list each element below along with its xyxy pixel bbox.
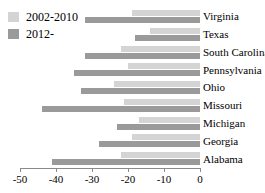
bar-group xyxy=(20,97,200,115)
category-label: Virginia xyxy=(203,8,265,26)
bar-group xyxy=(20,61,200,79)
bar xyxy=(85,17,200,23)
category-label: Pennsylvania xyxy=(203,61,265,79)
category-label: Georgia xyxy=(203,132,265,150)
bar xyxy=(81,88,200,94)
bar-group xyxy=(20,150,200,168)
bar xyxy=(121,46,200,52)
x-axis-line xyxy=(20,168,200,169)
legend-label-2002-2010: 2002-2010 xyxy=(26,11,78,23)
bar xyxy=(74,70,200,76)
bar xyxy=(85,53,200,59)
bar xyxy=(124,99,200,105)
category-axis-labels: VirginiaTexasSouth CarolinaPennsylvaniaO… xyxy=(203,8,265,168)
bar xyxy=(121,152,200,158)
bar xyxy=(132,10,200,16)
category-label: Michigan xyxy=(203,115,265,133)
bar-group xyxy=(20,44,200,62)
bar xyxy=(150,28,200,34)
category-label: Ohio xyxy=(203,79,265,97)
bar-group xyxy=(20,132,200,150)
x-axis-tick-label: -10 xyxy=(157,174,172,185)
x-axis-tick xyxy=(200,168,201,172)
chart-legend: 2002-2010 2012- xyxy=(8,8,78,42)
x-axis-tick xyxy=(128,168,129,172)
bar-group xyxy=(20,79,200,97)
x-axis-tick-label: -50 xyxy=(13,174,28,185)
bar xyxy=(139,117,200,123)
bar xyxy=(99,141,200,147)
bar xyxy=(42,106,200,112)
x-axis-tick-label: -30 xyxy=(85,174,100,185)
x-axis-tick-label: -40 xyxy=(49,174,64,185)
bar xyxy=(132,134,200,140)
bar xyxy=(135,35,200,41)
x-axis-tick xyxy=(56,168,57,172)
x-axis-tick-label: 0 xyxy=(197,174,203,185)
category-label: Alabama xyxy=(203,150,265,168)
legend-label-2012: 2012- xyxy=(26,28,54,40)
bar xyxy=(114,81,200,87)
bar xyxy=(52,159,200,165)
category-label: Texas xyxy=(203,26,265,44)
bar xyxy=(117,124,200,130)
category-label: South Carolina xyxy=(203,44,265,62)
x-axis-tick xyxy=(20,168,21,172)
x-axis-tick xyxy=(92,168,93,172)
x-axis-tick xyxy=(164,168,165,172)
bar-group xyxy=(20,115,200,133)
legend-item-late: 2012- xyxy=(8,25,78,42)
bar xyxy=(128,63,200,69)
category-label: Missouri xyxy=(203,97,265,115)
legend-swatch-2002-2010 xyxy=(8,12,19,22)
legend-swatch-2012 xyxy=(8,29,19,39)
bar-chart: 2002-2010 2012- VirginiaTexasSouth Carol… xyxy=(0,0,265,193)
legend-item-early: 2002-2010 xyxy=(8,8,78,25)
x-axis-tick-label: -20 xyxy=(121,174,136,185)
